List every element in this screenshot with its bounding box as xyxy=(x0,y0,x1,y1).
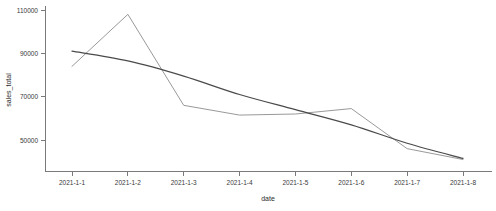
y-tick-label: 70000 xyxy=(20,93,38,100)
series-line-trend xyxy=(72,51,463,158)
series-line-actual xyxy=(72,14,463,159)
x-tick-label: 2021-1-8 xyxy=(450,179,476,186)
y-tick-label: 110000 xyxy=(17,7,39,14)
x-tick-label: 2021-1-5 xyxy=(282,179,308,186)
x-tick-group: 2021-1-12021-1-22021-1-32021-1-42021-1-5… xyxy=(59,172,476,187)
x-tick-label: 2021-1-1 xyxy=(59,179,85,186)
y-tick-group: 110000900007000050000 xyxy=(17,7,46,144)
chart-container: 110000900007000050000 sales_total 2021-1… xyxy=(0,0,496,211)
x-tick-label: 2021-1-4 xyxy=(227,179,253,186)
y-axis: 110000900007000050000 sales_total xyxy=(5,6,46,172)
y-tick-label: 50000 xyxy=(20,137,38,144)
series-group xyxy=(72,14,463,159)
y-axis-title: sales_total xyxy=(5,73,13,107)
x-tick-label: 2021-1-6 xyxy=(338,179,364,186)
x-tick-label: 2021-1-7 xyxy=(394,179,420,186)
x-axis-title: date xyxy=(261,195,275,202)
x-axis: 2021-1-12021-1-22021-1-32021-1-42021-1-5… xyxy=(46,172,493,203)
x-tick-label: 2021-1-3 xyxy=(171,179,197,186)
y-tick-label: 90000 xyxy=(20,50,38,57)
line-chart: 110000900007000050000 sales_total 2021-1… xyxy=(0,0,496,211)
x-tick-label: 2021-1-2 xyxy=(115,179,141,186)
